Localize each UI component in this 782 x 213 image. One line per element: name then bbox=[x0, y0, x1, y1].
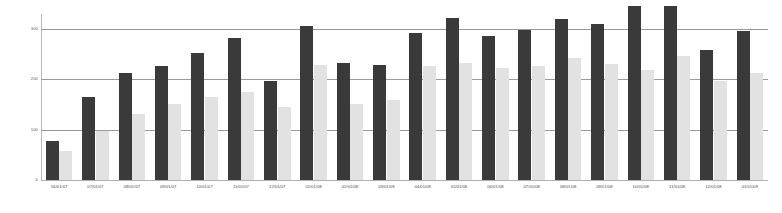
bar-secondary bbox=[205, 97, 218, 180]
bar-group bbox=[518, 14, 545, 180]
bar-group bbox=[155, 14, 182, 180]
bar-group bbox=[191, 14, 218, 180]
bar-primary bbox=[264, 81, 277, 180]
plot-area bbox=[41, 14, 768, 180]
x-axis-label: 08/01/08 bbox=[560, 185, 576, 189]
bar-secondary bbox=[714, 81, 727, 180]
bar-group bbox=[228, 14, 255, 180]
bar-primary bbox=[119, 73, 132, 180]
x-axis-label: 10/01/07 bbox=[196, 185, 212, 189]
x-axis-label: 02/01/08 bbox=[342, 185, 358, 189]
bar-group bbox=[373, 14, 400, 180]
bar-primary bbox=[409, 33, 422, 180]
x-axis-label: 07/01/07 bbox=[87, 185, 103, 189]
x-axis-label: 10/01/08 bbox=[633, 185, 649, 189]
bar-group bbox=[300, 14, 327, 180]
x-axis-label: 01/01/09 bbox=[742, 185, 758, 189]
bar-group bbox=[555, 14, 582, 180]
bar-primary bbox=[337, 63, 350, 180]
bar-group bbox=[700, 14, 727, 180]
x-axis-label: 04/01/08 bbox=[415, 185, 431, 189]
bar-group bbox=[737, 14, 764, 180]
x-axis-label: 11/01/08 bbox=[669, 185, 685, 189]
bar-secondary bbox=[387, 100, 400, 180]
bar-primary bbox=[628, 6, 641, 180]
y-tick-label: 200 bbox=[4, 77, 38, 81]
bar-secondary bbox=[132, 114, 145, 180]
bar-primary bbox=[446, 18, 459, 180]
bar-chart: 0100200300 06/01/0707/01/0708/01/0709/01… bbox=[0, 0, 782, 213]
bar-group bbox=[446, 14, 473, 180]
bar-group bbox=[664, 14, 691, 180]
bar-secondary bbox=[677, 56, 690, 180]
bar-primary bbox=[482, 36, 495, 180]
bar-primary bbox=[228, 38, 241, 180]
x-axis-label: 05/01/08 bbox=[451, 185, 467, 189]
x-axis-label: 09/01/08 bbox=[596, 185, 612, 189]
bar-primary bbox=[700, 50, 713, 180]
bar-group bbox=[264, 14, 291, 180]
x-axis-label: 11/01/07 bbox=[233, 185, 249, 189]
y-tick-label: 300 bbox=[4, 27, 38, 31]
x-axis-label: 06/01/07 bbox=[51, 185, 67, 189]
gridline-0 bbox=[41, 180, 768, 181]
x-axis-label: 03/01/08 bbox=[378, 185, 394, 189]
x-axis-label: 09/01/07 bbox=[160, 185, 176, 189]
bar-group bbox=[628, 14, 655, 180]
bar-secondary bbox=[532, 66, 545, 180]
bar-group bbox=[591, 14, 618, 180]
bar-secondary bbox=[96, 131, 109, 180]
bar-group bbox=[82, 14, 109, 180]
x-axis-label: 12/01/08 bbox=[705, 185, 721, 189]
bar-secondary bbox=[459, 63, 472, 180]
bar-group bbox=[46, 14, 73, 180]
bar-secondary bbox=[314, 65, 327, 180]
bar-primary bbox=[300, 26, 313, 180]
bar-primary bbox=[191, 53, 204, 180]
bar-primary bbox=[737, 31, 750, 180]
x-axis-label: 12/01/07 bbox=[269, 185, 285, 189]
bar-group bbox=[119, 14, 146, 180]
bar-secondary bbox=[641, 70, 654, 180]
bar-secondary bbox=[59, 151, 72, 180]
bar-primary bbox=[555, 19, 568, 180]
bar-secondary bbox=[278, 107, 291, 180]
bar-group bbox=[482, 14, 509, 180]
y-tick-label: 0 bbox=[4, 178, 38, 182]
bar-primary bbox=[155, 66, 168, 180]
bar-primary bbox=[518, 30, 531, 180]
bar-primary bbox=[82, 97, 95, 180]
bar-secondary bbox=[568, 58, 581, 180]
bar-group bbox=[337, 14, 364, 180]
bar-secondary bbox=[241, 92, 254, 180]
bar-primary bbox=[664, 6, 677, 180]
x-axis-label: 06/01/08 bbox=[487, 185, 503, 189]
bar-primary bbox=[373, 65, 386, 180]
bar-secondary bbox=[605, 64, 618, 180]
y-tick-label: 100 bbox=[4, 128, 38, 132]
x-axis-label: 07/01/08 bbox=[524, 185, 540, 189]
bar-primary bbox=[46, 141, 59, 180]
bar-primary bbox=[591, 24, 604, 180]
bar-secondary bbox=[168, 104, 181, 180]
x-axis-label: 08/01/07 bbox=[124, 185, 140, 189]
bar-secondary bbox=[350, 104, 363, 180]
bar-secondary bbox=[496, 68, 509, 180]
bar-secondary bbox=[750, 73, 763, 180]
bar-secondary bbox=[423, 66, 436, 180]
x-axis-label: 01/01/08 bbox=[305, 185, 321, 189]
bar-group bbox=[409, 14, 436, 180]
